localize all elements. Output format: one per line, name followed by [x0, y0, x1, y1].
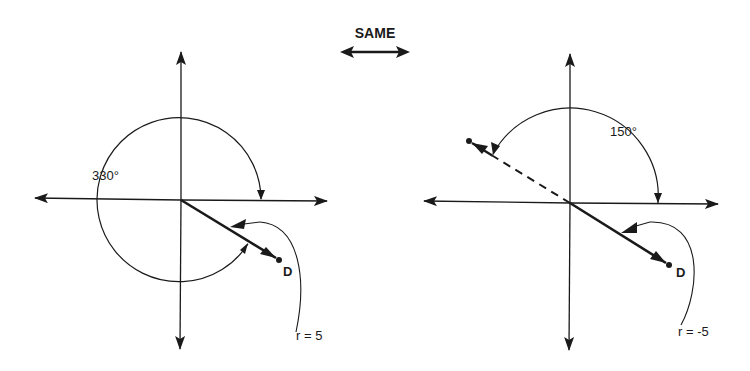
right-r-pointer — [650, 222, 694, 325]
left-point-d — [276, 257, 282, 263]
double-arrow-icon — [340, 46, 410, 58]
left-angle-label: 330° — [92, 168, 119, 183]
right-x-axis-pos — [570, 203, 718, 204]
right-angle-label: 150° — [610, 124, 637, 139]
left-diagram: 330° D r = 5 — [35, 52, 327, 349]
right-point-d — [666, 262, 672, 268]
left-arc-start-arrow-icon — [257, 190, 265, 200]
right-diagram: 150° D r = -5 — [424, 54, 718, 350]
left-r-pointer — [260, 222, 301, 332]
left-radius-label: r = 5 — [296, 328, 322, 343]
left-x-axis-neg — [35, 198, 181, 200]
right-x-axis-neg — [424, 201, 570, 203]
right-angle-arc — [493, 108, 658, 203]
same-label: SAME — [355, 25, 395, 41]
right-arc-start-arrow-icon — [654, 193, 662, 203]
left-terminal-ray — [181, 200, 276, 258]
right-point-label: D — [676, 265, 685, 280]
same-indicator: SAME — [340, 25, 410, 58]
right-ray-arrow-icon — [650, 251, 666, 263]
left-r-pointer-arrow-icon — [230, 219, 246, 229]
left-point-label: D — [283, 264, 292, 279]
right-radius-label: r = -5 — [678, 324, 709, 339]
right-axes — [424, 54, 718, 350]
left-x-axis-pos — [181, 200, 327, 201]
left-y-axis-down — [180, 200, 181, 349]
right-angle-point — [466, 138, 472, 144]
right-r-pointer-arrow-icon — [621, 222, 637, 233]
right-terminal-ray — [570, 203, 666, 263]
polar-coordinates-diagram: SAME 330° D r = 5 — [0, 0, 750, 371]
right-dashed-ray — [493, 156, 570, 203]
right-y-axis-down — [569, 203, 570, 350]
